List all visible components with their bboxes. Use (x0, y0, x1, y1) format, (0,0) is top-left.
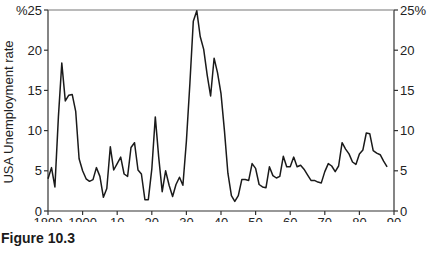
y-axis-left: 05101520%25 (16, 3, 48, 219)
x-tick-label: 40 (214, 215, 228, 222)
y-tick-label-left: 20 (28, 43, 42, 58)
y-tick-label-right: 10 (400, 123, 414, 138)
x-tick-label: 60 (283, 215, 297, 222)
figure-caption: Figure 10.3 (1, 230, 75, 246)
y-axis-title: USA Unemployment rate (1, 40, 16, 183)
x-tick-label: 90 (387, 215, 401, 222)
x-tick-label: 1900 (68, 215, 97, 222)
x-axis: 18901900102030405060708090 (34, 211, 402, 222)
x-tick-label: 80 (352, 215, 366, 222)
x-tick-label: 1890 (34, 215, 63, 222)
y-axis-right: 0510152025% (394, 3, 426, 219)
x-tick-label: 50 (248, 215, 262, 222)
y-tick-label-left: 10 (28, 123, 42, 138)
unemployment-line (48, 11, 387, 202)
y-tick-label-right: 20 (400, 43, 414, 58)
y-tick-label-left: 15 (28, 83, 42, 98)
y-tick-label-right: 5 (400, 163, 407, 178)
y-tick-label-right: 15 (400, 83, 414, 98)
y-tick-label-left: %25 (16, 3, 42, 18)
y-tick-label-left: 5 (35, 163, 42, 178)
x-tick-label: 70 (318, 215, 332, 222)
x-tick-label: 30 (179, 215, 193, 222)
y-tick-label-right: 25% (400, 3, 426, 18)
x-tick-label: 20 (145, 215, 159, 222)
x-tick-label: 10 (110, 215, 124, 222)
unemployment-chart: 05101520%25 0510152025% 1890190010203040… (0, 0, 429, 222)
